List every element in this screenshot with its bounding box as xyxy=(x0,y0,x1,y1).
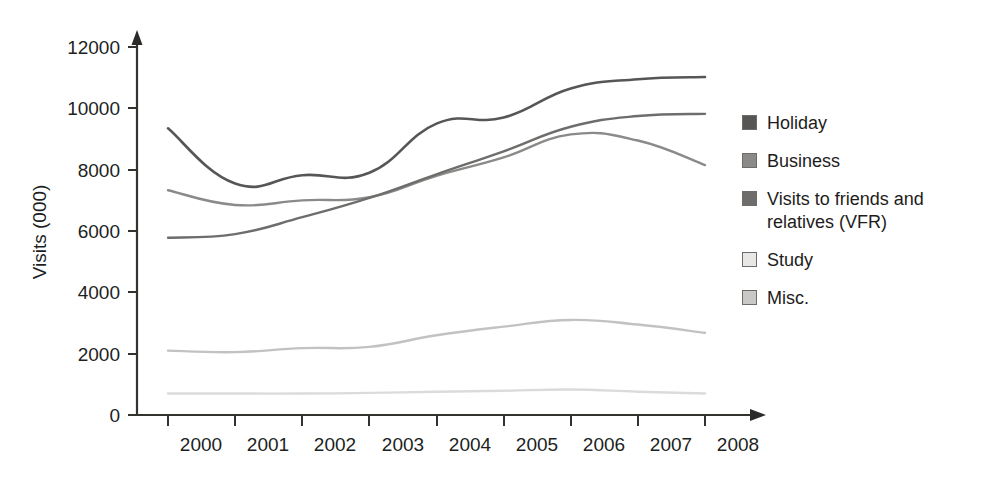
line-chart-figure: 12000 10000 8000 6000 4000 2000 0 Visits… xyxy=(0,0,982,487)
x-tick-label-2003: 2003 xyxy=(382,434,424,455)
legend-label-study: Study xyxy=(767,249,813,272)
legend-label-misc: Misc. xyxy=(767,287,809,310)
data-series-group xyxy=(168,77,705,394)
y-axis-title: Visits (000) xyxy=(29,185,50,280)
legend-item-misc[interactable]: Misc. xyxy=(742,287,972,310)
series-line-business xyxy=(168,133,705,206)
chart-legend: Holiday Business Visits to friends and r… xyxy=(742,112,972,310)
legend-label-business: Business xyxy=(767,150,840,173)
legend-swatch-vfr xyxy=(742,191,757,206)
x-tick-label-2001: 2001 xyxy=(247,434,289,455)
x-tick-label-2000: 2000 xyxy=(180,434,222,455)
legend-item-vfr[interactable]: Visits to friends and relatives (VFR) xyxy=(742,188,972,234)
legend-item-study[interactable]: Study xyxy=(742,249,972,272)
x-tick-label-2002: 2002 xyxy=(314,434,356,455)
x-tick-label-2007: 2007 xyxy=(650,434,692,455)
y-tick-label-8000: 8000 xyxy=(78,160,120,181)
y-axis-arrowhead xyxy=(132,30,143,45)
series-line-misc xyxy=(168,390,705,394)
series-line-holiday xyxy=(168,77,705,187)
y-tick-label-4000: 4000 xyxy=(78,282,120,303)
y-tick-label-2000: 2000 xyxy=(78,344,120,365)
y-tick-label-6000: 6000 xyxy=(78,221,120,242)
x-tick-label-2005: 2005 xyxy=(516,434,558,455)
legend-label-vfr: Visits to friends and relatives (VFR) xyxy=(767,188,924,234)
x-axis-group: 2000 2001 2002 2003 2004 2005 2006 2007 … xyxy=(137,409,766,455)
y-tick-label-12000: 12000 xyxy=(67,37,120,58)
legend-swatch-holiday xyxy=(742,115,757,130)
legend-item-business[interactable]: Business xyxy=(742,150,972,173)
legend-item-holiday[interactable]: Holiday xyxy=(742,112,972,135)
x-tick-label-2004: 2004 xyxy=(449,434,492,455)
series-line-study xyxy=(168,320,705,352)
x-axis-arrowhead xyxy=(750,409,766,421)
legend-swatch-misc xyxy=(742,290,757,305)
x-tick-label-2008: 2008 xyxy=(717,434,759,455)
legend-swatch-business xyxy=(742,153,757,168)
y-axis-group: 12000 10000 8000 6000 4000 2000 0 Visits… xyxy=(29,30,143,426)
legend-swatch-study xyxy=(742,252,757,267)
y-tick-label-10000: 10000 xyxy=(67,98,120,119)
legend-label-holiday: Holiday xyxy=(767,112,827,135)
y-tick-label-0: 0 xyxy=(109,405,120,426)
x-tick-label-2006: 2006 xyxy=(583,434,625,455)
